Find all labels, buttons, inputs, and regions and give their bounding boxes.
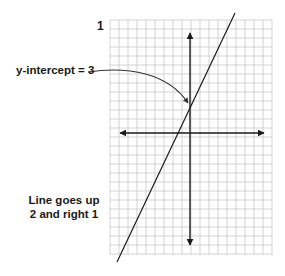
panel-number-label: 1 bbox=[97, 19, 104, 33]
slope-annotation: Line goes up 2 and right 1 bbox=[24, 193, 104, 221]
graph-paper-grid bbox=[110, 20, 272, 255]
plotted-line bbox=[117, 13, 235, 262]
slope-annotation-line-2: 2 and right 1 bbox=[24, 207, 104, 221]
y-intercept-annotation: y-intercept = 3 bbox=[16, 64, 94, 76]
graph-figure bbox=[0, 0, 285, 276]
slope-annotation-line-1: Line goes up bbox=[24, 193, 104, 207]
